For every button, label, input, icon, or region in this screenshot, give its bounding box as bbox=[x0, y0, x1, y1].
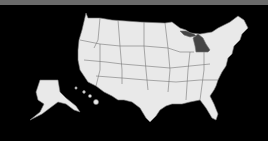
right-edge bbox=[268, 0, 274, 141]
map-frame bbox=[0, 0, 274, 141]
state-hawaii[interactable] bbox=[75, 87, 99, 105]
us-map bbox=[0, 0, 268, 141]
state-alaska[interactable] bbox=[30, 80, 80, 120]
